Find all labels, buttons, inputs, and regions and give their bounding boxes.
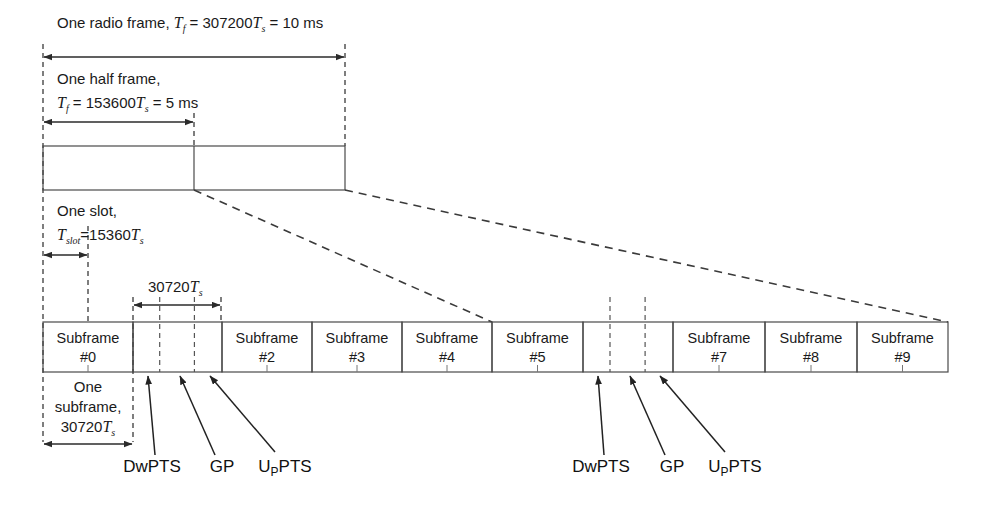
special-subframe-annotation: 30720Ts [134,278,220,305]
subframe-label-line2: #3 [349,349,365,365]
subframe-cell[interactable]: Subframe#4 [402,322,492,372]
subframe-label-line1: Subframe [236,330,299,346]
subframe-cell[interactable]: Subframe#7 [673,322,765,372]
subframe-label-line1: Subframe [871,330,934,346]
subframe-label-line1: Subframe [57,330,120,346]
radio-frame-label: One radio frame, Tf = 307200Ts = 10 ms [57,14,323,34]
subframe-label-line1: Subframe [326,330,389,346]
dwpts-pointer-right [598,376,604,455]
subframe-label-line2: #7 [711,349,727,365]
subframe-cell[interactable]: Subframe#8 [765,322,857,372]
half-frame-box [43,146,345,190]
slot-annotation: One slot, Tslot=15360Ts [44,202,144,255]
subframe-label-line1: Subframe [416,330,479,346]
dwpts-label-right: DwPTS [572,457,630,476]
subframe-row: Subframe#0Subframe#2Subframe#3Subframe#4… [43,297,948,372]
slot-label-line1: One slot, [57,202,117,219]
pts-pointers-left: DwPTS GP UPPTS [123,376,311,479]
subframe-duration-line1: One [74,378,102,395]
uppts-label-left: UPPTS [258,457,311,479]
subframe-duration-line3: 30720Ts [61,418,116,438]
subframe-cell[interactable] [133,297,222,372]
special-subframe-duration-label: 30720Ts [148,278,203,298]
subframe-cell[interactable]: Subframe#0 [43,322,133,372]
pts-pointers-right: DwPTS GP UPPTS [572,376,761,479]
uppts-pointer-left [210,376,275,452]
subframe-label-line2: #2 [259,349,275,365]
subframe-cell[interactable]: Subframe#5 [492,322,583,372]
subframe-cell[interactable]: Subframe#3 [312,322,402,372]
subframe-duration-line2: subframe, [55,398,122,415]
subframe-label-line1: Subframe [506,330,569,346]
subframe-label-line2: #5 [529,349,545,365]
subframe-label-line1: Subframe [688,330,751,346]
dwpts-pointer-left [148,376,155,455]
slot-label-line2: Tslot=15360Ts [57,226,144,246]
gp-label-right: GP [660,457,685,476]
gp-label-left: GP [210,457,235,476]
subframe-label-line2: #9 [894,349,910,365]
expansion-line-left [194,190,492,322]
gp-pointer-right [630,376,665,455]
subframe-label-line2: #0 [80,349,96,365]
subframe-cell[interactable]: Subframe#2 [222,322,312,372]
gp-pointer-left [180,376,215,455]
half-frame-label-line2: Tf = 153600Ts = 5 ms [57,94,198,114]
subframe-cell[interactable] [583,297,673,372]
expansion-line-right [345,190,948,322]
uppts-label-right: UPPTS [708,457,761,479]
subframe-box[interactable] [133,322,222,372]
subframe-label-line2: #8 [803,349,819,365]
subframe-duration-annotation: One subframe, 30720Ts [44,378,132,444]
subframe-label-line1: Subframe [780,330,843,346]
uppts-pointer-right [660,376,725,452]
dwpts-label-left: DwPTS [123,457,181,476]
subframe-cell[interactable]: Subframe#9 [857,322,948,372]
diagram-canvas: One radio frame, Tf = 307200Ts = 10 ms O… [0,0,984,505]
subframe-box[interactable] [583,322,673,372]
half-frame-annotation: One half frame, Tf = 153600Ts = 5 ms [44,70,198,122]
radio-frame-annotation: One radio frame, Tf = 307200Ts = 10 ms [44,14,344,57]
subframe-label-line2: #4 [439,349,455,365]
half-frame-label-line1: One half frame, [57,70,160,87]
frame-structure-diagram: One radio frame, Tf = 307200Ts = 10 ms O… [0,0,984,505]
expansion-lines [194,190,948,322]
